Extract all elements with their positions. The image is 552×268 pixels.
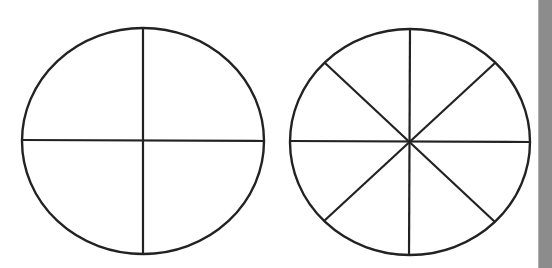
fraction-circles-diagram	[0, 0, 552, 268]
division-line	[22, 140, 263, 141]
circle-eighths	[290, 29, 530, 256]
page-edge-bar	[538, 0, 552, 268]
circle-quarters	[22, 28, 264, 254]
